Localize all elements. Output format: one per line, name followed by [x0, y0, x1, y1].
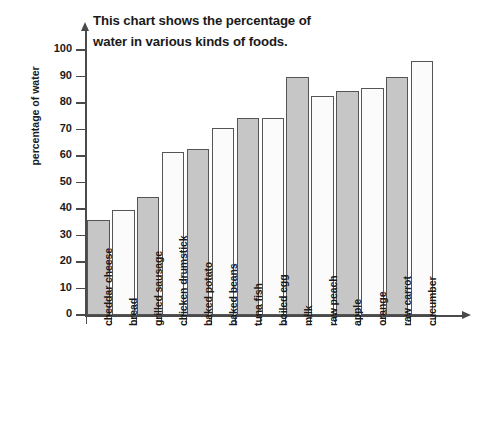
y-axis-tick-mark: [76, 102, 85, 104]
plot-area: [86, 50, 435, 315]
y-axis-tick-label: 30: [42, 228, 72, 240]
y-axis-arrow-icon: [81, 22, 89, 31]
y-axis-tick-label: 10: [42, 281, 72, 293]
x-axis-category-label: raw peach: [327, 276, 339, 326]
y-axis-tick-label: 50: [42, 175, 72, 187]
x-axis-category-label: bread: [127, 298, 139, 326]
y-axis-tick-mark: [76, 49, 85, 51]
x-axis-category-label: tuna fish: [252, 283, 264, 326]
y-axis-tick-label: 70: [42, 122, 72, 134]
y-axis-tick-label: 80: [42, 95, 72, 107]
x-axis-category-label: grilled sausage: [152, 251, 164, 326]
y-axis-tick-mark: [76, 288, 85, 290]
bar-chart: This chart shows the percentage of water…: [0, 0, 488, 422]
y-axis-tick-label: 20: [42, 254, 72, 266]
x-axis-category-label: chicken drumstick: [177, 235, 189, 326]
y-axis-tick-mark: [76, 129, 85, 131]
y-axis-label: percentage of water: [29, 51, 41, 181]
x-axis-tick-mark: [86, 315, 87, 324]
y-axis-tick-label: 90: [42, 69, 72, 81]
x-axis-category-label: raw carrot: [401, 276, 413, 326]
bar: [286, 77, 308, 316]
y-axis-tick-label: 40: [42, 201, 72, 213]
y-axis-tick-label: 60: [42, 148, 72, 160]
y-axis-tick-label: 100: [42, 42, 72, 54]
bar: [361, 88, 383, 315]
y-axis-tick-mark: [76, 261, 85, 263]
y-axis-tick-mark: [76, 235, 85, 237]
x-axis-category-label: apple: [351, 299, 363, 326]
x-axis-category-label: milk: [302, 305, 314, 326]
bar: [336, 91, 358, 315]
x-axis-category-label: baked potato: [202, 262, 214, 326]
y-axis-tick-label: 0: [42, 307, 72, 319]
chart-title: This chart shows the percentage of water…: [93, 10, 328, 52]
x-axis-category-label: baked beans: [227, 263, 239, 326]
x-axis-arrow-icon: [462, 311, 471, 319]
y-axis-tick-mark: [76, 182, 85, 184]
y-axis-tick-mark: [76, 208, 85, 210]
x-axis-category-label: cucumber: [426, 277, 438, 326]
x-axis-category-label: orange: [376, 292, 388, 326]
y-axis-tick-mark: [76, 76, 85, 78]
x-axis-category-label: boiled egg: [277, 274, 289, 326]
x-axis-category-label: cheddar cheese: [102, 248, 114, 326]
y-axis-tick-mark: [76, 314, 85, 316]
y-axis-tick-mark: [76, 155, 85, 157]
